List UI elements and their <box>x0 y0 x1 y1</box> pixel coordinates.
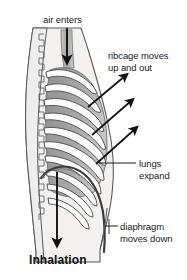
label-lungs-line1: lungs <box>139 158 161 169</box>
label-ribcage-line2: up and out <box>108 62 152 73</box>
label-ribcage-line1: ribcage moves <box>108 50 168 61</box>
label-diaphragm-line1: diaphragm <box>120 221 164 232</box>
figure-title-inhalation: Inhalation <box>29 255 87 267</box>
label-air-enters: air enters <box>43 14 82 26</box>
label-ribcage-moves-up-and-out: ribcage movesup and out <box>108 50 168 73</box>
label-lungs-expand: lungsexpand <box>139 158 170 181</box>
label-lungs-line2: expand <box>139 170 170 181</box>
label-diaphragm-line2: moves down <box>120 233 172 244</box>
inhalation-diagram-figure: air enters ribcage movesup and out lungs… <box>0 0 187 280</box>
label-diaphragm-moves-down: diaphragmmoves down <box>120 221 172 244</box>
